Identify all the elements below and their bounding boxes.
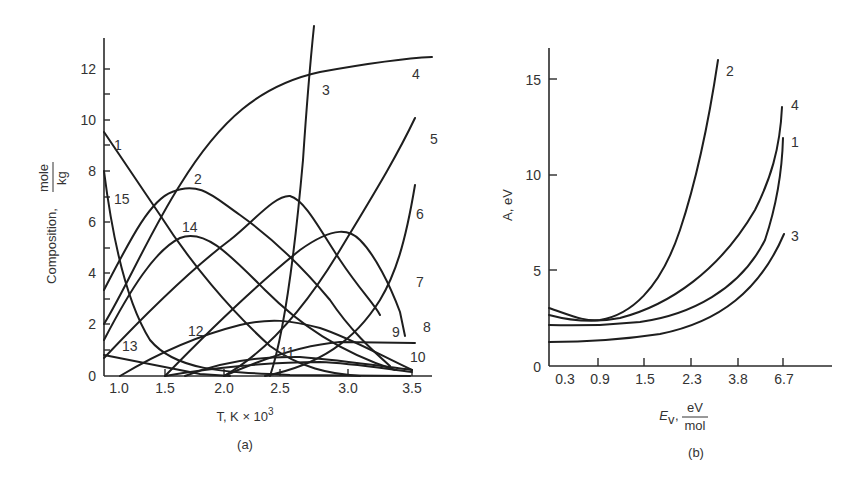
svg-text:mole: mole — [36, 164, 51, 192]
svg-text:15: 15 — [525, 72, 541, 88]
b-curves — [549, 60, 784, 342]
a-curve-4 — [104, 57, 432, 324]
svg-text:3: 3 — [791, 228, 799, 244]
svg-text:6: 6 — [88, 214, 96, 230]
b-curve-4 — [549, 107, 782, 321]
a-y-tick-labels: 0 2 4 6 8 10 12 — [80, 61, 96, 384]
svg-text:2.0: 2.0 — [214, 380, 234, 396]
svg-text:2: 2 — [726, 63, 734, 79]
svg-text:4: 4 — [412, 66, 420, 82]
b-x-ticks — [598, 358, 783, 366]
a-x-axis-title: T, K × 103 — [216, 406, 274, 424]
svg-text:10: 10 — [410, 349, 426, 365]
svg-text:0.9: 0.9 — [590, 371, 610, 387]
svg-text:6.7: 6.7 — [774, 371, 794, 387]
svg-text:3: 3 — [322, 82, 330, 98]
svg-text:mol: mol — [685, 418, 706, 433]
b-x-tick-labels: 0.3 0.9 1.5 2.3 3.8 6.7 — [555, 371, 794, 387]
a-curve-14 — [104, 236, 395, 370]
svg-text:0.3: 0.3 — [555, 371, 575, 387]
a-x-tick-labels: 1.0 1.5 2.0 2.5 3.0 3.5 — [109, 380, 422, 396]
svg-text:2.3: 2.3 — [682, 371, 702, 387]
b-curve-labels: 2 4 1 3 — [726, 63, 799, 244]
svg-text:4: 4 — [88, 265, 96, 281]
svg-text:5: 5 — [533, 263, 541, 279]
svg-text:0: 0 — [88, 368, 96, 384]
svg-text:3.8: 3.8 — [728, 371, 748, 387]
svg-text:3.0: 3.0 — [338, 380, 358, 396]
figure-canvas: 0 2 4 6 8 10 12 1.0 1.5 2.0 2.5 3.0 3.5 … — [0, 0, 858, 486]
svg-text:1: 1 — [791, 134, 799, 150]
svg-text:2: 2 — [194, 171, 202, 187]
svg-text:2.5: 2.5 — [270, 380, 290, 396]
svg-text:,: , — [675, 408, 679, 423]
svg-text:6: 6 — [416, 206, 424, 222]
b-panel-label: (b) — [688, 445, 704, 460]
svg-text:8: 8 — [423, 319, 431, 335]
b-y-tick-labels: 0 5 10 15 — [525, 72, 541, 375]
b-y-ticks — [549, 79, 557, 270]
svg-text:eV: eV — [687, 400, 703, 415]
svg-text:0: 0 — [533, 359, 541, 375]
svg-text:3.5: 3.5 — [402, 380, 422, 396]
svg-text:9: 9 — [392, 324, 400, 340]
svg-text:1.5: 1.5 — [635, 371, 655, 387]
a-panel-label: (a) — [237, 437, 253, 452]
svg-text:8: 8 — [88, 163, 96, 179]
a-curve-5 — [224, 118, 415, 376]
panel-a: 0 2 4 6 8 10 12 1.0 1.5 2.0 2.5 3.0 3.5 … — [36, 26, 438, 452]
svg-text:5: 5 — [430, 131, 438, 147]
svg-text:13: 13 — [122, 338, 138, 354]
svg-text:4: 4 — [791, 97, 799, 113]
a-y-axis-title: Composition, mole kg — [36, 162, 69, 284]
svg-text:12: 12 — [188, 323, 204, 339]
panel-b: 0 5 10 15 0.3 0.9 1.5 2.3 3.8 6.7 E v , … — [500, 48, 832, 460]
svg-text:kg: kg — [54, 171, 69, 185]
svg-text:10: 10 — [80, 112, 96, 128]
svg-text:15: 15 — [114, 191, 130, 207]
svg-text:1: 1 — [114, 137, 122, 153]
svg-text:v: v — [668, 412, 675, 427]
svg-text:1.5: 1.5 — [155, 380, 175, 396]
svg-text:10: 10 — [525, 167, 541, 183]
svg-text:E: E — [659, 408, 668, 423]
svg-text:14: 14 — [182, 219, 198, 235]
svg-text:12: 12 — [80, 61, 96, 77]
a-curves — [104, 26, 432, 376]
b-x-axis-title: E v , eV mol — [659, 400, 708, 433]
svg-text:Composition,: Composition, — [44, 208, 59, 284]
svg-text:2: 2 — [88, 316, 96, 332]
b-curve-1 — [549, 138, 783, 325]
svg-text:11: 11 — [280, 344, 295, 360]
b-y-axis-title: A, eV — [500, 189, 515, 221]
svg-text:7: 7 — [416, 274, 424, 290]
svg-text:1.0: 1.0 — [109, 380, 129, 396]
